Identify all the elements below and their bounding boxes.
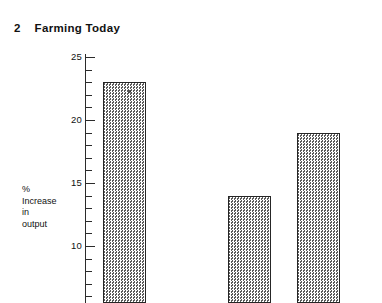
y-axis-tick-minor — [86, 259, 92, 260]
y-axis-label-line-4: output — [22, 219, 57, 231]
y-axis-tick-label: 15 — [62, 177, 82, 188]
y-axis-tick-minor — [86, 107, 92, 108]
y-axis-tick-minor — [86, 221, 92, 222]
bar-chart: 25201510 % Increase in output — [0, 0, 382, 303]
y-axis-tick-minor — [86, 208, 92, 209]
y-axis-tick-minor — [86, 133, 92, 134]
y-axis-tick-label: 20 — [62, 114, 82, 125]
y-axis-label-line-3: in — [22, 207, 57, 219]
y-axis-tick-minor — [86, 158, 92, 159]
y-axis-tick-minor — [86, 196, 92, 197]
y-axis-tick-minor — [86, 145, 92, 146]
y-axis-tick-major — [86, 183, 95, 184]
y-axis-tick-minor — [86, 170, 92, 171]
y-axis-tick-major — [86, 57, 95, 58]
y-axis-tick-label: 10 — [62, 240, 82, 251]
y-axis-tick-minor — [86, 82, 92, 83]
y-axis-tick-label: 25 — [62, 51, 82, 62]
y-axis-tick-minor — [86, 284, 92, 285]
y-axis-tick-minor — [86, 233, 92, 234]
y-axis-tick-major — [86, 246, 95, 247]
y-axis-tick-minor — [86, 70, 92, 71]
y-axis-tick-minor — [86, 271, 92, 272]
bar — [297, 133, 340, 303]
bar — [103, 82, 146, 303]
bar — [228, 196, 271, 303]
scan-speckle-artifact — [128, 90, 131, 93]
y-axis-label: % Increase in output — [22, 184, 57, 230]
y-axis-label-line-2: Increase — [22, 196, 57, 208]
y-axis-tick-major — [86, 120, 95, 121]
y-axis-tick-minor — [86, 95, 92, 96]
y-axis-label-line-1: % — [22, 184, 57, 196]
page-canvas: 2 Farming Today 25201510 % Increase in o… — [0, 0, 382, 303]
y-axis-tick-minor — [86, 296, 92, 297]
